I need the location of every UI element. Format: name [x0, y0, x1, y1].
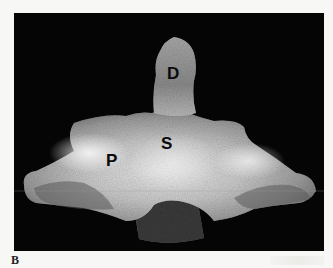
bone-illustration [14, 13, 324, 251]
panel-label: B [11, 253, 19, 268]
label-dens: D [167, 65, 179, 82]
label-body: S [161, 135, 172, 152]
label-pedicle: P [106, 152, 117, 169]
right-facet-highlight [213, 143, 285, 179]
central-highlight [129, 133, 219, 193]
radiograph-image: D S P [14, 13, 324, 251]
scan-artifact [270, 256, 324, 265]
